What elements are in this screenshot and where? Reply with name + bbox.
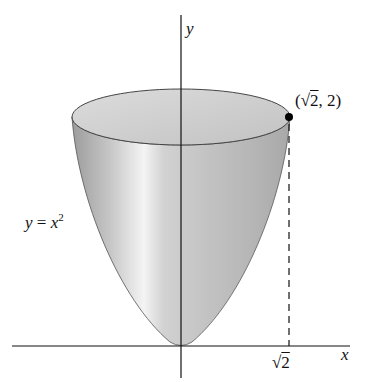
curve-exp: 2 [58, 211, 64, 223]
point-label: (√2, 2) [295, 92, 341, 109]
point-marker [285, 113, 293, 121]
x-axis-label: x [341, 346, 349, 363]
tick-radicand: 2 [281, 353, 290, 372]
point-rest: , 2) [319, 91, 342, 110]
curve-equation-label: y = x2 [25, 212, 64, 231]
paraboloid-diagram [0, 0, 371, 382]
point-radicand: 2 [310, 91, 319, 110]
tick-radical: √ [272, 353, 281, 372]
point-radical: √ [301, 91, 310, 110]
curve-lhs: y [25, 213, 33, 232]
tick-label-sqrt2: √2 [272, 354, 290, 371]
y-axis-label: y [186, 20, 194, 37]
curve-eq: = [33, 213, 51, 232]
